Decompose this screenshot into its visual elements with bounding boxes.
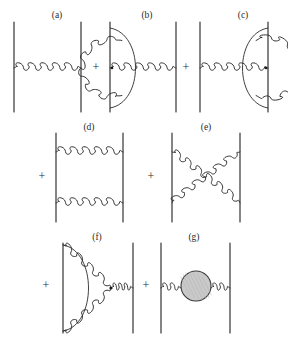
- panel-label-g: (g): [188, 232, 199, 243]
- plus-operator-plus-3: +: [39, 169, 46, 183]
- triple-gluon-vertex-dot-panel-f: [109, 286, 112, 289]
- panel-label-e: (e): [201, 122, 212, 133]
- feynman-figure: (a)(b)(c)(d)(e)(f)(g) ++++++: [0, 0, 288, 339]
- plus-operator-plus-6: +: [143, 278, 150, 292]
- plus-operator-plus-5: +: [43, 278, 50, 292]
- panel-label-d: (d): [83, 122, 94, 133]
- plus-operator-plus-4: +: [148, 169, 155, 183]
- panel-label-b: (b): [141, 10, 152, 21]
- diagram-canvas: (a)(b)(c)(d)(e)(f)(g) ++++++: [0, 0, 288, 339]
- vertex-dot-panel-c: [265, 67, 268, 70]
- plus-operator-plus-2: +: [183, 60, 190, 74]
- panel-label-f: (f): [92, 232, 102, 243]
- panel-label-c: (c): [238, 10, 249, 21]
- plus-operator-plus-1: +: [93, 60, 100, 74]
- vertex-dot-panel-b: [111, 67, 114, 70]
- panel-label-a: (a): [52, 10, 63, 21]
